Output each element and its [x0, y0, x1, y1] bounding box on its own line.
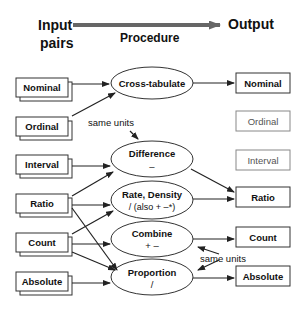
procedure-proportion: Proportion / — [111, 259, 193, 295]
input-box-count: Count — [16, 233, 72, 256]
svg-text:Ordinal: Ordinal — [25, 121, 58, 132]
svg-text:Nominal: Nominal — [23, 82, 60, 93]
input-types: Nominal Ordinal Interval Ratio Count Abs… — [16, 78, 72, 295]
svg-text:Proportion: Proportion — [128, 267, 177, 278]
svg-text:/ (also + –*): / (also + –*) — [129, 202, 175, 212]
procedure-diagram: Input pairs Output Procedure Nominal Ord… — [0, 0, 304, 313]
procedures: Cross-tabulate Difference – Rate, Densit… — [111, 67, 193, 295]
procedure-rate-density: Rate, Density / (also + –*) — [111, 181, 193, 219]
input-box-ratio: Ratio — [16, 194, 72, 217]
arrow-icon — [72, 208, 117, 270]
output-box-nominal: Nominal — [236, 73, 290, 93]
svg-text:Count: Count — [28, 237, 56, 248]
svg-text:Absolute: Absolute — [243, 271, 284, 282]
output-box-count: Count — [236, 227, 290, 247]
same-units-annotation-top: same units — [88, 117, 134, 128]
arrow-icon — [72, 93, 115, 116]
arrow-icon — [72, 252, 115, 270]
svg-text:Cross-tabulate: Cross-tabulate — [119, 78, 186, 89]
svg-text:Difference: Difference — [129, 148, 175, 159]
procedure-cross-tabulate: Cross-tabulate — [111, 67, 193, 99]
output-box-ratio: Ratio — [236, 187, 290, 207]
header-input-label: Input — [38, 17, 73, 33]
input-box-ordinal: Ordinal — [16, 117, 72, 140]
input-box-interval: Interval — [16, 155, 72, 178]
output-box-absolute: Absolute — [236, 266, 290, 286]
input-box-absolute: Absolute — [16, 272, 72, 295]
svg-text:Interval: Interval — [25, 159, 59, 170]
output-box-ordinal: Ordinal — [236, 111, 290, 131]
svg-text:Count: Count — [249, 232, 277, 243]
svg-text:–: – — [149, 161, 155, 172]
annotation-arrow-icon — [130, 131, 138, 139]
procedure-combine: Combine + – — [111, 221, 193, 257]
header-output-label: Output — [228, 16, 274, 32]
svg-text:Absolute: Absolute — [22, 276, 63, 287]
arrow-icon — [72, 211, 113, 234]
arrow-icon — [72, 172, 113, 196]
svg-text:Ordinal: Ordinal — [248, 116, 279, 127]
svg-text:Ratio: Ratio — [251, 192, 275, 203]
header-procedure-label: Procedure — [120, 31, 180, 45]
svg-text:Interval: Interval — [247, 155, 278, 166]
output-box-interval: Interval — [236, 150, 290, 170]
procedure-difference: Difference – — [111, 141, 193, 177]
svg-text:/: / — [151, 279, 154, 290]
svg-text:+ –: + – — [145, 240, 159, 251]
arrow-icon — [191, 169, 234, 192]
same-units-annotation-bottom: same units — [200, 253, 246, 264]
header: Input pairs Output Procedure — [38, 16, 274, 51]
header-pairs-label: pairs — [40, 35, 74, 51]
input-box-nominal: Nominal — [16, 78, 72, 101]
svg-text:Rate, Density: Rate, Density — [122, 189, 183, 200]
svg-text:Combine: Combine — [132, 228, 173, 239]
svg-text:Ratio: Ratio — [30, 198, 54, 209]
svg-text:Nominal: Nominal — [244, 78, 281, 89]
